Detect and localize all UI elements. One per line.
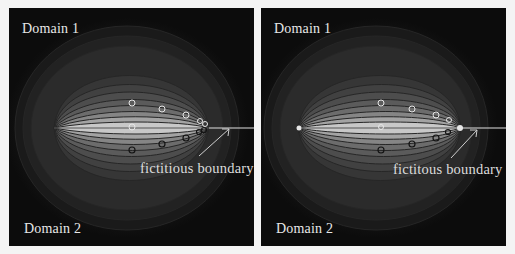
- contour-plot-left: [9, 8, 254, 246]
- domain-1-label: Domain 1: [274, 21, 331, 37]
- contour-panel-right: Domain 1 Domain 2 fictitous boundary: [261, 8, 506, 246]
- domain-1-label: Domain 1: [22, 21, 79, 37]
- domain-2-label: Domain 2: [24, 221, 81, 237]
- crack-tip-left-marker: [297, 126, 302, 131]
- crack-tip-right-marker: [457, 125, 463, 131]
- contour-plot-right: [261, 8, 506, 246]
- fictitious-boundary-label: fictitious boundary: [140, 160, 254, 177]
- fictitious-boundary-label: fictitous boundary: [393, 161, 503, 178]
- contour-panel-left: Domain 1 Domain 2 fictitious boundary: [9, 8, 254, 246]
- domain-2-label: Domain 2: [276, 221, 333, 237]
